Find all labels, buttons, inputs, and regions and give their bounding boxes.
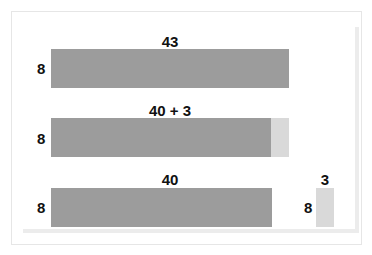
row2-rectangle-3 bbox=[271, 118, 289, 157]
row3-width-label-3: 3 bbox=[321, 172, 329, 187]
row1-rectangle-43 bbox=[51, 49, 289, 88]
row2-height-label: 8 bbox=[37, 131, 45, 146]
row3-rectangle-3 bbox=[316, 188, 334, 227]
row1-height-label: 8 bbox=[37, 61, 45, 76]
row2-width-label: 40 + 3 bbox=[149, 103, 191, 118]
row2-rectangle-40 bbox=[51, 118, 271, 157]
row3-small-height-label: 8 bbox=[304, 200, 312, 215]
frame-shadow-right bbox=[355, 27, 359, 233]
frame-shadow-bottom bbox=[23, 229, 359, 233]
row3-rectangle-40 bbox=[51, 188, 272, 227]
row3-height-label: 8 bbox=[37, 200, 45, 215]
row1-width-label: 43 bbox=[162, 34, 179, 49]
row3-width-label-40: 40 bbox=[162, 172, 179, 187]
